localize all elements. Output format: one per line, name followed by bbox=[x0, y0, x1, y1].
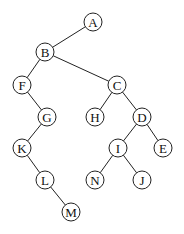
tree-node-f: F bbox=[13, 76, 31, 94]
node-label: F bbox=[18, 78, 25, 93]
tree-node-a: A bbox=[84, 13, 102, 31]
tree-nodes: ABFCGHDKIELNJM bbox=[13, 13, 172, 221]
edge-b-c bbox=[53, 56, 109, 82]
tree-node-e: E bbox=[154, 139, 172, 157]
node-label: C bbox=[113, 78, 122, 93]
tree-node-d: D bbox=[133, 108, 151, 126]
tree-node-l: L bbox=[36, 171, 54, 189]
tree-node-i: I bbox=[109, 139, 127, 157]
node-label: E bbox=[159, 141, 167, 156]
edge-i-j bbox=[123, 155, 136, 173]
tree-node-j: J bbox=[133, 171, 151, 189]
tree-node-k: K bbox=[13, 139, 31, 157]
node-label: B bbox=[41, 45, 50, 60]
node-label: L bbox=[41, 173, 49, 188]
node-label: N bbox=[90, 173, 100, 188]
node-label: D bbox=[137, 110, 146, 125]
node-label: I bbox=[116, 141, 120, 156]
edge-k-l bbox=[27, 155, 39, 172]
tree-node-h: H bbox=[86, 108, 104, 126]
edge-c-h bbox=[100, 92, 112, 109]
tree-node-b: B bbox=[36, 43, 54, 61]
edge-d-e bbox=[147, 124, 158, 140]
node-label: G bbox=[42, 110, 51, 125]
edge-g-k bbox=[28, 124, 42, 141]
edge-l-m bbox=[51, 187, 66, 205]
tree-node-n: N bbox=[86, 171, 104, 189]
tree-node-c: C bbox=[108, 76, 126, 94]
node-label: M bbox=[65, 205, 77, 220]
node-label: K bbox=[17, 141, 27, 156]
node-label: H bbox=[90, 110, 99, 125]
tree-node-g: G bbox=[38, 108, 56, 126]
tree-diagram: ABFCGHDKIELNJM bbox=[0, 0, 184, 234]
edge-c-d bbox=[123, 92, 137, 110]
edge-a-b bbox=[53, 27, 86, 47]
tree-node-m: M bbox=[62, 203, 80, 221]
edge-b-f bbox=[27, 59, 40, 77]
edge-f-g bbox=[28, 92, 42, 110]
edge-i-n bbox=[100, 155, 112, 172]
node-label: A bbox=[88, 15, 98, 30]
node-label: J bbox=[139, 173, 144, 188]
edge-d-i bbox=[124, 124, 137, 141]
